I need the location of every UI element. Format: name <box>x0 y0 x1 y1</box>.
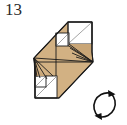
rotate-arc-left <box>94 93 109 117</box>
rotate-arrows-icon <box>86 86 124 124</box>
rotate-arrowhead-top <box>108 90 116 97</box>
diagram-canvas: 13 <box>0 0 127 125</box>
rotate-arc-right <box>100 93 116 117</box>
